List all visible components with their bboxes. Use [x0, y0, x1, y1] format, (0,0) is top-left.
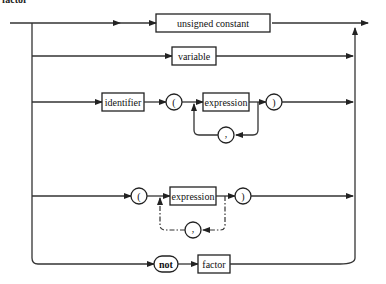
svg-text:not: not	[159, 259, 174, 270]
svg-text:,: ,	[192, 223, 195, 234]
syntax-diagram: unsigned constant variable identifier ( …	[0, 0, 386, 284]
row-function-call: identifier ( expression ) ,	[32, 93, 353, 143]
svg-text:,: ,	[225, 128, 228, 139]
variable-label: variable	[178, 51, 211, 62]
svg-text:): )	[241, 191, 244, 203]
row-variable: variable	[32, 47, 353, 65]
svg-text:expression: expression	[172, 191, 215, 202]
row-unsigned-constant: unsigned constant	[120, 14, 270, 32]
row-parenthesized: ( expression ) ,	[32, 187, 353, 238]
svg-text:expression: expression	[205, 97, 248, 108]
svg-text:): )	[272, 97, 275, 109]
identifier-label: identifier	[105, 97, 142, 108]
unsigned-constant-label: unsigned constant	[177, 18, 249, 29]
row-not-factor: not factor	[38, 255, 340, 273]
left-bus	[32, 23, 38, 264]
svg-text:factor: factor	[202, 259, 226, 270]
